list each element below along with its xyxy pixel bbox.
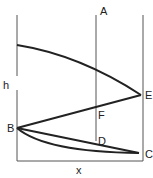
label-B: B — [7, 123, 14, 134]
label-x: x — [76, 165, 82, 176]
diagram-canvas — [0, 0, 153, 178]
label-A: A — [100, 6, 107, 17]
label-F: F — [98, 110, 105, 121]
label-h: h — [3, 80, 9, 91]
upper-curve — [17, 45, 141, 95]
line-B-E — [17, 95, 141, 128]
label-D: D — [98, 136, 106, 147]
label-E: E — [145, 90, 152, 101]
label-C: C — [145, 149, 153, 160]
